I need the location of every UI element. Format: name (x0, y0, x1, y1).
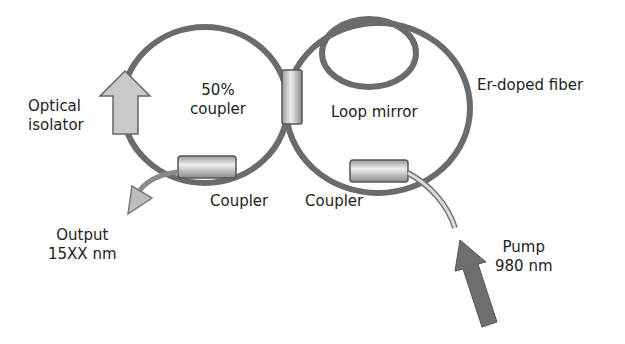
inner-fiber-coil (322, 19, 416, 87)
label-output-line1: Output (48, 226, 117, 245)
label-isolator-line2: isolator (28, 116, 84, 135)
label-optical-isolator: Optical isolator (28, 97, 84, 135)
output-fiber (140, 172, 178, 190)
label-pump-line2: 980 nm (495, 257, 553, 276)
label-coupler-right: Coupler (305, 192, 363, 211)
pump-arrow (455, 240, 497, 327)
label-coupler-left: Coupler (210, 192, 268, 211)
laser-diagram (0, 0, 625, 344)
label-output-line2: 15XX nm (48, 245, 117, 264)
label-pump: Pump 980 nm (495, 238, 553, 276)
label-50-coupler: 50% coupler (190, 81, 246, 119)
optical-isolator-arrow (100, 71, 150, 134)
left-coupler (178, 156, 236, 178)
label-50-line1: 50% (190, 81, 246, 100)
label-isolator-line1: Optical (28, 97, 84, 116)
pump-fiber (408, 173, 455, 228)
label-output: Output 15XX nm (48, 226, 117, 264)
label-50-line2: coupler (190, 100, 246, 119)
label-pump-line1: Pump (495, 238, 553, 257)
right-coupler (350, 160, 408, 182)
label-loop-mirror: Loop mirror (331, 103, 418, 122)
label-er-doped-fiber: Er-doped fiber (477, 76, 583, 95)
output-arrowhead (128, 186, 152, 214)
center-coupler (282, 70, 302, 124)
